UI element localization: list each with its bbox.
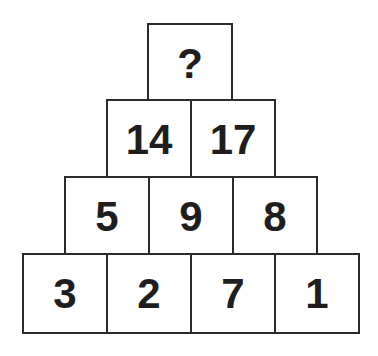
- pyramid-cell: 7: [190, 253, 276, 334]
- pyramid-row-3: 5 9 8: [64, 176, 318, 255]
- number-pyramid: ? 14 17 5 9 8 3 2 7 1: [0, 0, 378, 356]
- pyramid-cell: 17: [190, 99, 276, 180]
- pyramid-cell: 9: [148, 176, 234, 257]
- pyramid-cell: 2: [106, 253, 192, 334]
- pyramid-cell: 14: [106, 99, 192, 180]
- pyramid-cell: 3: [22, 253, 108, 334]
- pyramid-cell: 8: [232, 176, 318, 257]
- pyramid-row-bottom: 3 2 7 1: [22, 253, 360, 332]
- pyramid-row-top: ?: [147, 23, 233, 102]
- pyramid-cell: 1: [274, 253, 360, 334]
- pyramid-cell: 5: [64, 176, 150, 257]
- unknown-answer-cell[interactable]: ?: [147, 23, 233, 104]
- pyramid-row-2: 14 17: [106, 99, 276, 178]
